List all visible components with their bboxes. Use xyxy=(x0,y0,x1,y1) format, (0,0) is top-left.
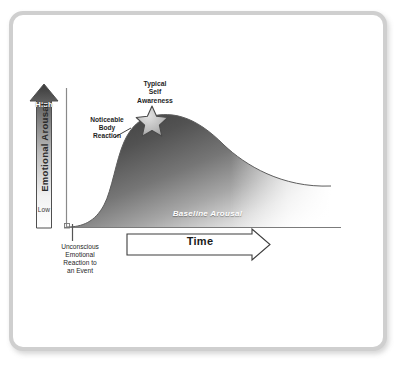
y-axis-title: Emotional Arousal xyxy=(39,94,50,202)
typical-line-3: Awareness xyxy=(119,97,191,105)
annotation-typical-self-awareness: Typical Self Awareness xyxy=(119,80,191,105)
typical-line-2: Self xyxy=(119,88,191,96)
noticeable-line-2: Body xyxy=(76,124,138,132)
noticeable-line-1: Noticeable xyxy=(76,116,138,124)
figure-root: High Emotional Arousal Low Noticeable Bo… xyxy=(0,0,404,372)
baseline-arousal-label: Baseline Arousal xyxy=(150,209,265,218)
unconscious-line-3: Reaction to xyxy=(36,259,124,267)
y-axis-low-label: Low xyxy=(30,206,58,213)
unconscious-line-2: Emotional xyxy=(36,251,124,259)
typical-line-1: Typical xyxy=(119,80,191,88)
unconscious-line-1: Unconscious xyxy=(36,243,124,251)
arousal-curve-svg xyxy=(0,0,404,372)
diagram-canvas xyxy=(0,0,404,372)
x-axis-time-label: Time xyxy=(160,235,240,247)
annotation-unconscious-emotional-reaction: Unconscious Emotional Reaction to an Eve… xyxy=(36,243,124,275)
noticeable-line-3: Reaction xyxy=(76,132,138,140)
annotation-noticeable-body-reaction: Noticeable Body Reaction xyxy=(76,116,138,140)
y-axis-labels: High Emotional Arousal Low xyxy=(30,86,58,228)
unconscious-line-4: an Event xyxy=(36,267,124,275)
